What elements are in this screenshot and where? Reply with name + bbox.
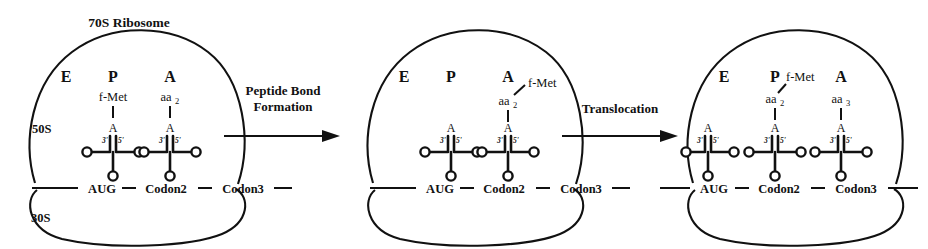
site-label-P: P	[770, 68, 780, 85]
site-label-E: E	[399, 68, 410, 85]
trna-loop-left	[810, 147, 819, 156]
three-prime-label: 3'	[496, 136, 503, 145]
large-subunit-label: 50S	[32, 122, 52, 136]
cargo-f-met: f-Met	[99, 90, 128, 104]
trna-anticodon-loop	[108, 171, 117, 180]
five-prime-label: 5'	[713, 136, 719, 145]
peptide-bond-link	[514, 85, 525, 95]
trna-loop-left	[82, 147, 91, 156]
step-label-line2: Formation	[253, 99, 313, 114]
site-label-P: P	[108, 68, 118, 85]
trna-P-site: A 3' 5'	[82, 121, 143, 181]
trna-anticodon-loop	[836, 171, 845, 180]
svg-text:aa: aa	[498, 94, 510, 108]
cargo-aa3: aa 3	[831, 92, 850, 108]
trna-cloverleaf	[92, 136, 134, 172]
svg-text:aa: aa	[160, 90, 172, 104]
trna-cloverleaf	[820, 136, 862, 172]
site-label-P: P	[446, 68, 456, 85]
small-subunit-outline	[368, 189, 583, 246]
three-prime-label: 3'	[763, 136, 770, 145]
svg-text:3: 3	[846, 98, 850, 108]
codon-label: Codon2	[145, 182, 187, 196]
step-arrow-head	[322, 130, 340, 142]
trna-P-site: A 3' 5'	[420, 121, 481, 181]
translation-diagram: 70S Ribosome 50S 30S E P A f-Met aa 2 A …	[0, 0, 928, 249]
panel-translocation: E P A f-Met aa 2 aa 3 A 3' 5' A	[660, 30, 918, 246]
trna-cloverleaf	[430, 136, 472, 172]
step-label-line1: Peptide Bond	[246, 83, 322, 98]
small-subunit-outline	[688, 189, 903, 246]
site-label-E: E	[61, 68, 72, 85]
large-subunit-outline	[368, 30, 583, 184]
trna-loop-left	[139, 147, 148, 156]
acceptor-base-label: A	[704, 121, 713, 135]
trna-A-site: A 3' 5'	[477, 121, 538, 181]
cargo-aa2: aa 2	[765, 92, 784, 108]
acceptor-base-label: A	[837, 121, 846, 135]
svg-text:aa: aa	[765, 92, 777, 106]
three-prime-label: 3'	[829, 136, 836, 145]
small-subunit-outline	[30, 189, 245, 246]
trna-anticodon-loop	[446, 171, 455, 180]
codon-label: AUG	[426, 182, 454, 196]
three-prime-label: 3'	[158, 136, 165, 145]
codon-label: AUG	[700, 182, 728, 196]
codon-label: AUG	[88, 182, 116, 196]
site-label-A: A	[164, 68, 176, 85]
three-prime-label: 3'	[439, 136, 446, 145]
cargo-f-met: f-Met	[786, 70, 815, 84]
trna-P-site: A 3' 5'	[744, 121, 805, 181]
trna-cloverleaf	[690, 136, 729, 172]
site-label-A: A	[835, 68, 847, 85]
site-label-A: A	[502, 68, 514, 85]
cargo-aa2: aa 2	[498, 94, 517, 110]
svg-text:2: 2	[513, 100, 517, 110]
acceptor-base-label: A	[771, 121, 780, 135]
trna-A-site: A 3' 5'	[139, 121, 200, 181]
trna-loop-right	[729, 147, 738, 156]
svg-text:aa: aa	[831, 92, 843, 106]
codon-label: Codon2	[483, 182, 525, 196]
trna-cloverleaf	[149, 136, 191, 172]
trna-anticodon-loop	[503, 171, 512, 180]
panel-peptide-bond: E P A f-Met aa 2 A 3' 5' A 3' 5'	[368, 30, 630, 246]
codon-label: Codon2	[758, 182, 800, 196]
trna-loop-right	[862, 147, 871, 156]
cargo-aa2: aa 2	[160, 90, 179, 106]
acceptor-base-label: A	[447, 121, 456, 135]
three-prime-label: 3'	[696, 136, 703, 145]
trna-loop-left	[420, 147, 429, 156]
trna-cloverleaf	[487, 136, 529, 172]
five-prime-label: 5'	[846, 136, 852, 145]
svg-text:2: 2	[175, 96, 179, 106]
trna-loop-left	[744, 147, 753, 156]
cargo-f-met: f-Met	[528, 76, 557, 90]
site-label-E: E	[719, 68, 730, 85]
trna-anticodon-loop	[703, 171, 712, 180]
trna-loop-left	[477, 147, 486, 156]
five-prime-label: 5'	[175, 136, 181, 145]
trna-A-site: A 3' 5'	[810, 121, 871, 181]
five-prime-label: 5'	[118, 136, 124, 145]
large-subunit-outline	[30, 30, 245, 184]
five-prime-label: 5'	[780, 136, 786, 145]
codon-label: Codon3	[835, 182, 877, 196]
small-subunit-label: 30S	[31, 211, 51, 225]
trna-anticodon-loop	[770, 171, 779, 180]
trna-anticodon-loop	[165, 171, 174, 180]
trna-loop-right	[529, 147, 538, 156]
acceptor-base-label: A	[504, 121, 513, 135]
large-subunit-outline	[688, 30, 903, 184]
codon-label: Codon3	[222, 182, 264, 196]
trna-cloverleaf	[754, 136, 796, 172]
svg-text:2: 2	[780, 98, 784, 108]
five-prime-label: 5'	[513, 136, 519, 145]
peptide-bond-link	[778, 84, 786, 93]
step-arrow-head	[660, 130, 678, 142]
trna-loop-right	[796, 147, 805, 156]
five-prime-label: 5'	[456, 136, 462, 145]
ribosome-title: 70S Ribosome	[88, 15, 169, 30]
acceptor-base-label: A	[166, 121, 175, 135]
three-prime-label: 3'	[101, 136, 108, 145]
